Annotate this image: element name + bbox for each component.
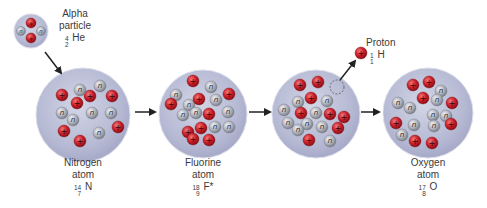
proton-particle: +: [294, 79, 306, 91]
proton-particle: +: [338, 111, 350, 123]
neutron-n-icon: n: [412, 120, 417, 129]
plus-icon: +: [327, 110, 334, 119]
neutron-particle: n: [223, 121, 235, 133]
plus-icon: +: [412, 137, 419, 146]
neutron-particle: n: [56, 107, 68, 119]
plus-icon: +: [410, 81, 417, 90]
neutron-n-icon: n: [226, 107, 231, 116]
proton-particle: +: [445, 118, 457, 130]
plus-icon: +: [196, 95, 203, 104]
plus-icon: +: [226, 90, 233, 99]
fluorine-isotope: 189 F*: [173, 181, 233, 197]
neutron-particle: n: [392, 97, 404, 109]
alpha-isotope: 42 He: [50, 32, 100, 48]
proton-particle: +: [223, 88, 235, 100]
nitrogen-symbol: N: [85, 181, 92, 192]
plus-icon: +: [306, 136, 313, 145]
arrow-alpha-to-nitrogen: [45, 52, 61, 73]
plus-icon: +: [429, 139, 436, 148]
plus-icon: +: [420, 94, 427, 103]
neutron-particle: n: [316, 121, 328, 133]
neutron-particle: n: [292, 124, 304, 136]
plus-icon: +: [297, 81, 304, 90]
neutron-particle: n: [431, 94, 443, 106]
fluorine-name: Fluorine: [173, 157, 233, 169]
neutron-particle: n: [321, 95, 333, 107]
proton-particle: +: [295, 107, 307, 119]
neutron-particle: n: [37, 27, 46, 36]
proton-particle: +: [112, 121, 124, 133]
neutron-particle: n: [408, 119, 420, 131]
plus-icon: +: [308, 94, 315, 103]
neutron-particle: n: [324, 135, 336, 147]
neutron-n-icon: n: [97, 128, 102, 137]
plus-icon: +: [393, 119, 400, 128]
fluorine-label: Fluorine atom 189 F*: [173, 157, 233, 197]
neutron-n-icon: n: [213, 122, 218, 131]
proton-particle: +: [187, 75, 199, 87]
proton-particle: +: [187, 133, 199, 145]
alpha-atomic-number: 2: [65, 42, 69, 48]
plus-icon: +: [298, 109, 305, 118]
neutron-particle: n: [86, 107, 98, 119]
neutron-particle: n: [282, 117, 294, 129]
alpha-name-line2: particle: [50, 20, 100, 32]
neutron-n-icon: n: [408, 103, 413, 112]
neutron-n-icon: n: [109, 108, 114, 117]
proton-particle: +: [203, 108, 215, 120]
proton-particle: +: [58, 125, 70, 137]
plus-icon: +: [115, 123, 122, 132]
plus-icon: +: [87, 92, 94, 101]
plus-icon: +: [426, 78, 433, 87]
proton-isotope: 11 H: [370, 49, 406, 65]
proton-particle: +: [26, 33, 36, 43]
neutron-particle: n: [427, 109, 439, 121]
neutron-n-icon: n: [314, 108, 319, 117]
plus-icon: +: [109, 92, 116, 101]
neutron-n-icon: n: [71, 115, 76, 124]
proton-symbol: H: [377, 49, 384, 60]
plus-icon: +: [206, 136, 213, 145]
proton-particle: +: [106, 90, 118, 102]
arrow-proton-emission: [340, 61, 355, 80]
proton-particle: +: [409, 135, 421, 147]
plus-icon: +: [59, 91, 66, 100]
nitrogen-subname: atom: [53, 169, 113, 181]
plus-icon: +: [28, 20, 33, 28]
plus-icon: +: [341, 113, 348, 122]
proton-particle: +: [193, 93, 205, 105]
plus-icon: +: [449, 99, 456, 108]
proton-particle: +: [417, 92, 429, 104]
neutron-n-icon: n: [174, 90, 179, 99]
neutron-particle: n: [278, 104, 290, 116]
proton-particle: +: [74, 135, 86, 147]
neutron-n-icon: n: [432, 121, 437, 130]
neutron-particle: n: [396, 129, 408, 141]
neutron-particle: n: [17, 27, 26, 36]
plus-icon: +: [190, 135, 197, 144]
neutron-n-icon: n: [181, 110, 186, 119]
neutron-particle: n: [205, 81, 217, 93]
plus-icon: +: [335, 124, 342, 133]
fluorine-symbol: F*: [204, 181, 214, 192]
neutron-n-icon: n: [328, 136, 333, 145]
plus-icon: +: [198, 124, 205, 133]
neutron-n-icon: n: [431, 110, 436, 119]
neutron-particle: n: [209, 121, 221, 133]
proton-name: Proton: [366, 37, 406, 49]
plus-icon: +: [61, 127, 68, 136]
oxygen-isotope: 178 O: [398, 181, 458, 197]
neutron-n-icon: n: [435, 95, 440, 104]
neutron-n-icon: n: [296, 97, 301, 106]
alpha-name-line1: Alpha: [50, 8, 100, 20]
neutron-particle: n: [105, 107, 117, 119]
proton-particle: +: [203, 134, 215, 146]
proton-atomic-number: 1: [370, 59, 374, 65]
neutron-n-icon: n: [60, 108, 65, 117]
nitrogen-isotope: 147 N: [53, 181, 113, 197]
plus-icon: +: [315, 78, 322, 87]
neutron-n-icon: n: [227, 122, 232, 131]
proton-particle: +: [407, 79, 419, 91]
proton-particle: +: [390, 117, 402, 129]
proton-particle: +: [324, 108, 336, 120]
